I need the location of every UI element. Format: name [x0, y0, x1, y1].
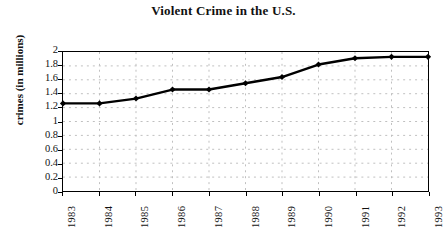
x-tick-mark	[209, 192, 210, 196]
x-tick-label: 1985	[139, 206, 150, 228]
x-tick-mark	[392, 192, 393, 196]
x-tick-label: 1990	[323, 206, 334, 228]
plot-area	[62, 51, 429, 192]
data-point-marker	[96, 100, 102, 106]
x-tick-label: 1986	[176, 206, 187, 228]
data-point-marker	[242, 80, 248, 86]
x-tick-mark	[429, 192, 430, 196]
x-tick-mark	[282, 192, 283, 196]
x-tick-mark	[172, 192, 173, 196]
x-tick-label: 1989	[286, 206, 297, 228]
chart-figure: Violent Crime in the U.S. crimes (in mil…	[0, 0, 447, 240]
data-point-marker	[169, 86, 175, 92]
x-tick-mark	[246, 192, 247, 196]
x-tick-label: 1983	[66, 206, 77, 228]
x-tick-mark	[319, 192, 320, 196]
data-point-marker	[352, 55, 358, 61]
x-tick-mark	[356, 192, 357, 196]
data-point-marker	[315, 61, 321, 67]
data-point-marker	[206, 86, 212, 92]
x-tick-mark	[135, 192, 136, 196]
data-point-marker	[279, 74, 285, 80]
x-tick-label: 1993	[433, 206, 444, 228]
data-series-line	[63, 52, 428, 191]
x-tick-label: 1991	[360, 206, 371, 228]
x-tick-label: 1992	[396, 206, 407, 228]
x-tick-label: 1984	[103, 206, 114, 228]
x-tick-mark	[62, 192, 63, 196]
x-tick-label: 1987	[213, 206, 224, 228]
x-tick-label: 1988	[250, 206, 261, 228]
x-tick-mark	[99, 192, 100, 196]
data-point-marker	[133, 96, 139, 102]
data-point-marker	[388, 54, 394, 60]
